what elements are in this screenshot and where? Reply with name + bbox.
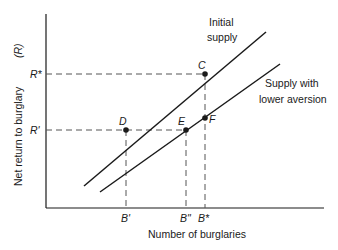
initial-supply-label-1: Initial [209,16,234,28]
x-tick-b-star: B* [198,212,210,224]
lower-aversion-label-2: lower aversion [259,93,327,105]
supply-diagram: C D E F R* R' B' B" B* Initial supply Su… [0,0,338,250]
y-axis-symbol: (R) [12,43,24,58]
x-axis-label: Number of burglaries [148,228,246,240]
point-label-f: F [209,113,216,125]
lower-aversion-label-1: Supply with [265,77,319,89]
point-label-e: E [178,115,186,127]
y-tick-r-star: R* [30,68,43,80]
y-tick-r-prime: R' [30,124,41,136]
x-tick-b-prime: B' [121,212,131,224]
initial-supply-label-2: supply [207,31,238,43]
y-axis-label: Net return to burglary [12,86,24,186]
x-tick-b-double-prime: B" [180,212,192,224]
initial-supply-curve [84,32,266,186]
point-label-d: D [119,115,127,127]
point-c [202,71,208,77]
point-e [183,127,189,133]
point-f [202,115,208,121]
point-label-c: C [198,59,206,71]
point-d [123,127,129,133]
